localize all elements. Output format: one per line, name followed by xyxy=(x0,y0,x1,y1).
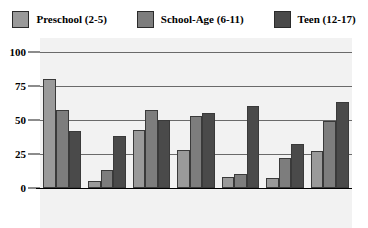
bar xyxy=(56,110,69,188)
bar xyxy=(69,131,82,188)
y-tick-label: 0 xyxy=(21,183,27,194)
bar xyxy=(323,121,336,188)
y-axis-tick-labels: 0255075100 xyxy=(0,38,26,228)
bar xyxy=(101,170,114,188)
y-tick-label: 25 xyxy=(15,149,26,160)
legend-swatch-school-age xyxy=(137,11,154,28)
y-tick-label: 50 xyxy=(15,115,26,126)
y-tick-mark xyxy=(28,154,40,155)
chart-legend: Preschool (2-5)School-Age (6-11)Teen (12… xyxy=(0,6,368,32)
legend-swatch-preschool xyxy=(12,11,29,28)
bar xyxy=(177,150,190,188)
y-axis-tick-marks xyxy=(28,38,40,228)
plot-area xyxy=(40,38,352,228)
bar xyxy=(158,120,171,188)
bar xyxy=(222,177,235,188)
bar xyxy=(88,181,101,188)
y-tick-label: 100 xyxy=(10,47,27,58)
bar xyxy=(113,136,126,188)
bar xyxy=(190,116,203,188)
y-tick-mark xyxy=(28,86,40,87)
bar xyxy=(266,178,279,188)
legend-entry[interactable]: Preschool (2-5) xyxy=(12,11,106,28)
plot-wrapper: 0255075100 VCRInternetBooksVideo GamesTe… xyxy=(0,38,368,228)
y-tick-label: 75 xyxy=(15,81,26,92)
grouped-bar-chart: Preschool (2-5)School-Age (6-11)Teen (12… xyxy=(0,0,368,228)
y-tick-mark xyxy=(28,52,40,53)
bar xyxy=(133,130,146,188)
bar xyxy=(291,144,304,188)
bar xyxy=(202,113,215,188)
legend-label: School-Age (6-11) xyxy=(161,14,244,25)
bar xyxy=(336,102,349,188)
bar xyxy=(145,110,158,188)
bar xyxy=(311,151,324,188)
y-tick-mark xyxy=(28,120,40,121)
bar xyxy=(247,106,260,188)
bar xyxy=(43,79,56,188)
legend-swatch-teen xyxy=(274,11,291,28)
bar xyxy=(279,158,292,188)
legend-label: Teen (12-17) xyxy=(298,14,356,25)
legend-label: Preschool (2-5) xyxy=(36,14,106,25)
bar xyxy=(234,174,247,188)
legend-entry[interactable]: Teen (12-17) xyxy=(274,11,356,28)
bars-layer xyxy=(40,38,352,228)
legend-entry[interactable]: School-Age (6-11) xyxy=(137,11,244,28)
